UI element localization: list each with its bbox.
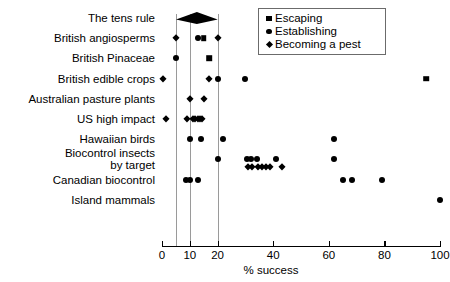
- data-point: [220, 136, 226, 142]
- legend-circle-icon: [263, 29, 275, 35]
- data-point: [186, 95, 193, 102]
- reference-line: [176, 14, 177, 246]
- category-label: Australian pasture plants: [0, 93, 155, 105]
- data-point: [160, 75, 167, 82]
- data-point: [206, 75, 213, 82]
- data-point: [198, 136, 204, 142]
- legend-square-icon: [263, 16, 275, 22]
- reference-line: [218, 14, 219, 246]
- legend-label: Becoming a pest: [275, 38, 361, 51]
- data-point: [331, 136, 337, 142]
- x-axis-line: [162, 246, 441, 247]
- data-point: [206, 56, 212, 62]
- legend-item: Establishing: [263, 25, 379, 38]
- x-axis-tick-label: 100: [430, 249, 449, 261]
- category-label: Biocontrol insects by target: [0, 147, 155, 171]
- category-label: British angiosperms: [0, 32, 155, 44]
- legend-item: Escaping: [263, 12, 379, 25]
- x-axis-title: % success: [244, 264, 299, 276]
- data-point: [278, 164, 285, 171]
- tens-rule-band: [176, 12, 218, 24]
- data-point: [349, 177, 355, 183]
- x-axis-tick: [190, 241, 191, 246]
- data-point: [340, 177, 346, 183]
- data-point: [173, 55, 179, 61]
- data-point: [200, 95, 207, 102]
- data-point: [214, 35, 221, 42]
- x-axis-tick: [329, 241, 330, 246]
- category-label: British Pinaceae: [0, 52, 155, 64]
- x-axis-tick: [218, 241, 219, 246]
- legend-label: Establishing: [275, 25, 337, 38]
- data-point: [379, 177, 385, 183]
- data-point: [172, 35, 179, 42]
- x-axis-tick: [162, 241, 163, 246]
- x-axis-tick-label: 10: [183, 249, 196, 261]
- data-point: [267, 164, 274, 171]
- category-label: British edible crops: [0, 73, 155, 85]
- data-point: [162, 115, 169, 122]
- category-label: Canadian biocontrol: [0, 174, 155, 186]
- x-axis-tick: [273, 241, 274, 246]
- x-axis-tick-label: 40: [267, 249, 280, 261]
- data-point: [195, 177, 201, 183]
- chart-legend: EscapingEstablishingBecoming a pest: [258, 8, 386, 55]
- data-point: [254, 156, 260, 162]
- data-point: [273, 156, 279, 162]
- legend-label: Escaping: [275, 12, 322, 25]
- x-axis-tick: [440, 241, 441, 246]
- data-point: [201, 35, 207, 41]
- category-label: Hawaiian birds: [0, 133, 155, 145]
- category-label: US high impact: [0, 113, 155, 125]
- category-label: Island mammals: [0, 194, 155, 206]
- x-axis-tick-label: 20: [211, 249, 224, 261]
- x-axis-tick-label: 80: [378, 249, 391, 261]
- x-axis-tick-label: 0: [159, 249, 165, 261]
- legend-diamond-icon: [263, 42, 275, 47]
- data-point: [423, 76, 429, 82]
- data-point: [215, 76, 221, 82]
- category-label: The tens rule: [0, 12, 155, 24]
- data-point: [195, 35, 201, 41]
- data-point: [187, 177, 193, 183]
- data-point: [437, 197, 443, 203]
- x-axis-tick: [384, 241, 385, 246]
- data-point: [242, 76, 248, 82]
- data-point: [331, 156, 337, 162]
- data-point: [215, 156, 221, 162]
- data-point: [187, 136, 193, 142]
- legend-item: Becoming a pest: [263, 38, 379, 51]
- x-axis-tick-label: 60: [322, 249, 335, 261]
- reference-line: [190, 14, 191, 246]
